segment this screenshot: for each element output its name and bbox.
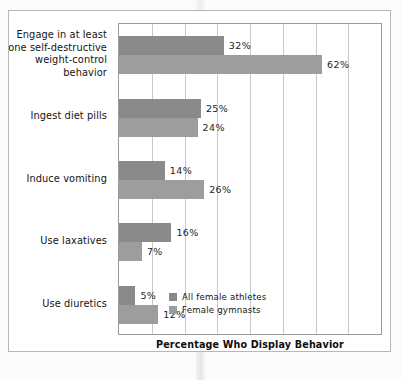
bar[interactable] [119, 242, 142, 261]
legend-label: Female gymnasts [182, 305, 261, 315]
category-label-line: weight-control [0, 54, 107, 66]
bar-value-label: 25% [206, 99, 228, 118]
legend-item-female-gymnasts[interactable]: Female gymnasts [169, 305, 266, 315]
legend-label: All female athletes [182, 292, 266, 302]
bar-value-label: 7% [147, 242, 163, 261]
category-label: Ingest diet pills [0, 110, 107, 122]
bar-value-label: 62% [327, 55, 349, 74]
category-label-line: one self-destructive [0, 42, 107, 54]
category-label-line: Use diuretics [0, 298, 107, 310]
category-label: Induce vomiting [0, 173, 107, 185]
bar-value-label: 16% [176, 223, 198, 242]
bar-value-label: 14% [170, 161, 192, 180]
bar[interactable] [119, 286, 135, 305]
x-axis-title: Percentage Who Display Behavior [118, 339, 382, 350]
bar[interactable] [119, 99, 201, 118]
bar[interactable] [119, 118, 198, 137]
chart-legend: All female athletes Female gymnasts [169, 292, 266, 318]
category-label-line: Use laxatives [0, 235, 107, 247]
bar[interactable] [119, 223, 171, 242]
bar[interactable] [119, 161, 165, 180]
category-label-line: Engage in at least [0, 29, 107, 41]
bar[interactable] [119, 180, 204, 199]
bar-value-label: 5% [140, 286, 156, 305]
category-label-line: Induce vomiting [0, 173, 107, 185]
bar-value-label: 24% [203, 118, 225, 137]
chart-card: 32%62%25%24%14%26%16%7%5%12% Engage in a… [8, 10, 391, 352]
plot-area: 32%62%25%24%14%26%16%7%5%12% [118, 23, 382, 335]
chart-page: 32%62%25%24%14%26%16%7%5%12% Engage in a… [0, 0, 401, 380]
category-label: Use laxatives [0, 235, 107, 247]
bar[interactable] [119, 55, 322, 74]
category-label: Use diuretics [0, 298, 107, 310]
bar-value-label: 32% [229, 36, 251, 55]
legend-swatch-icon [169, 293, 177, 301]
legend-item-all-female-athletes[interactable]: All female athletes [169, 292, 266, 302]
legend-swatch-icon [169, 306, 177, 314]
bar-value-label: 26% [209, 180, 231, 199]
category-label-line: Ingest diet pills [0, 110, 107, 122]
page-seam-bottom [196, 352, 205, 380]
category-label-line: behavior [0, 67, 107, 79]
category-label: Engage in at leastone self-destructivewe… [0, 29, 107, 79]
bar[interactable] [119, 36, 224, 55]
bar[interactable] [119, 305, 158, 324]
